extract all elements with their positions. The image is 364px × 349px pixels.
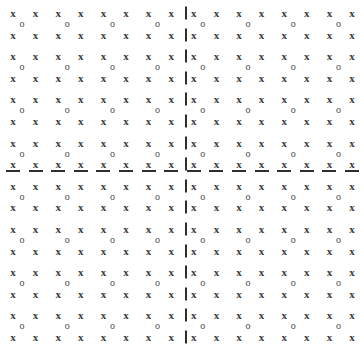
vertical-axis-dash <box>185 71 187 84</box>
vertical-axis-dash <box>185 7 187 20</box>
vertical-axis-dash <box>185 266 187 279</box>
vertical-axis-dash <box>185 201 187 214</box>
vertical-axis-dash <box>185 115 187 128</box>
vertical-axis-dash <box>185 93 187 106</box>
vertical-axis-dash <box>185 158 187 171</box>
vertical-axis-dash <box>185 309 187 322</box>
lattice-figure: xxxxxxxxxxxxxxxxxxxxxxxxxxxxxxxxxxxxxxxx… <box>0 0 364 349</box>
vertical-axis-dash <box>185 287 187 300</box>
vertical-axis-dash <box>185 136 187 149</box>
vertical-axis-dash <box>185 244 187 257</box>
vertical-axis-dash <box>185 179 187 192</box>
vertical-axis-dash <box>185 28 187 41</box>
vertical-axis-dash <box>185 50 187 63</box>
vertical-axis <box>0 0 364 349</box>
vertical-axis-dash <box>185 331 187 344</box>
vertical-axis-dash <box>185 223 187 236</box>
